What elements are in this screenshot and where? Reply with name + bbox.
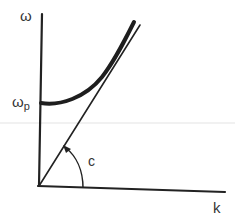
plasma-frequency-base: ω	[12, 93, 24, 110]
dispersion-curve	[41, 22, 134, 104]
omega-axis-label: ω	[20, 8, 32, 23]
slope-label: c	[88, 154, 95, 168]
k-axis-label: k	[213, 200, 221, 215]
plasma-frequency-label: ωp	[12, 94, 30, 112]
dispersion-diagram: ω ωp c k	[0, 0, 235, 218]
angle-arc	[66, 148, 83, 188]
plasma-frequency-subscript: p	[24, 100, 30, 112]
omega-axis	[39, 14, 42, 186]
k-axis	[38, 186, 225, 192]
diagram-graphics	[0, 0, 235, 218]
